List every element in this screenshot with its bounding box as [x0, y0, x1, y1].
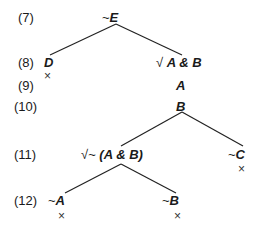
row-label-9: (9) — [18, 79, 34, 92]
node-a: A — [176, 79, 185, 92]
node-a-and-b: √ A & B — [156, 56, 202, 69]
row-label-12: (12) — [14, 194, 37, 207]
row-label-7: (7) — [18, 11, 34, 24]
closed-branch-mark: × — [58, 210, 65, 222]
row-label-8: (8) — [18, 56, 34, 69]
node-not-a: ~A — [48, 194, 65, 207]
node-not-e: ~E — [102, 11, 118, 24]
node-not-a-and-b: √~ (A & B) — [81, 148, 143, 161]
row-label-10: (10) — [14, 100, 37, 113]
tree-branches — [0, 0, 261, 229]
node-b: B — [176, 100, 185, 113]
row-label-11: (11) — [14, 148, 36, 161]
closed-branch-mark: × — [174, 210, 181, 222]
closed-branch-mark: × — [44, 70, 51, 82]
node-not-b: ~B — [162, 194, 179, 207]
closed-branch-mark: × — [238, 163, 245, 175]
node-not-c: ~C — [228, 148, 245, 161]
node-d: D — [44, 56, 53, 69]
